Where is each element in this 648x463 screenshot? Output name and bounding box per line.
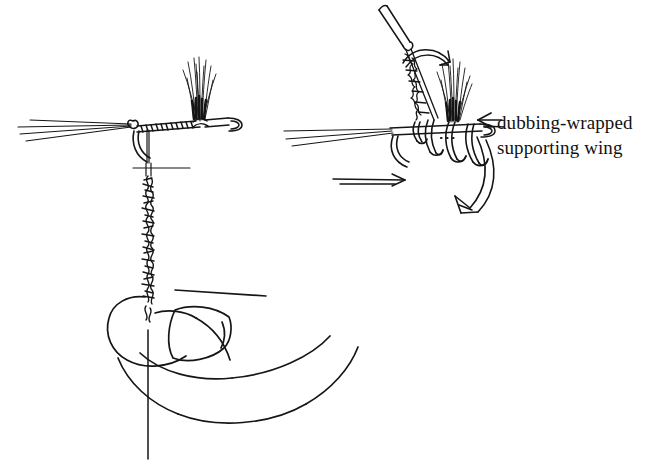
line-drawing xyxy=(0,0,648,463)
callout-label-line-2: supporting wing xyxy=(497,135,623,160)
callout-label-line-1: dubbing-wrapped xyxy=(497,110,633,135)
illustration-canvas: dubbing-wrapped supporting wing xyxy=(0,0,648,463)
page-background xyxy=(0,0,648,463)
